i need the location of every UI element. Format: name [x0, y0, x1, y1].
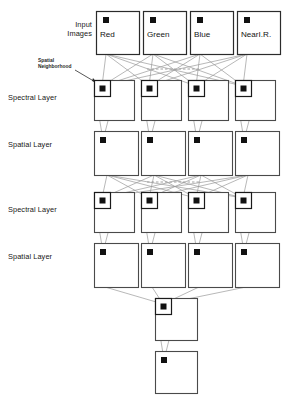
- spatial-neighborhood-annotation: Spatial Neighborhood: [38, 58, 94, 70]
- spectral-layer-1-node-2: [142, 81, 182, 121]
- spatial-neighborhood-line2: Neighborhood: [38, 64, 94, 70]
- spectral-layer-1-node-4: [236, 81, 276, 121]
- spatial-layer-2-node-2: [142, 244, 186, 288]
- output-spectral-layer-node-1: [156, 299, 198, 341]
- spectral-layer-2-node-1: [95, 193, 135, 233]
- spatial-layer-1-node-3-marker: [194, 137, 200, 143]
- input-images-label: Input Images: [40, 20, 92, 39]
- spatial-layer-1-node-2-marker: [147, 137, 153, 143]
- spatial-layer-1-node-2: [142, 132, 186, 176]
- input-band-red-marker: [103, 17, 109, 23]
- spatial-layer-1-node-4-marker: [241, 137, 247, 143]
- spectral-layer-1-label: Spectral Layer: [8, 93, 57, 102]
- spectral-layer-1-node-1: [95, 81, 135, 121]
- spectral-layer-1-node-1-marker: [100, 86, 106, 92]
- input-band-blue-label: Blue: [194, 30, 210, 39]
- input-band-green-marker: [150, 17, 156, 23]
- spatial-layer-2-node-1: [95, 244, 139, 288]
- spatial-layer-2-node-4-marker: [241, 249, 247, 255]
- input-band-red-label: Red: [100, 30, 115, 39]
- input-images-label-line1: Input: [40, 20, 92, 29]
- spatial-layer-2-node-3: [189, 244, 233, 288]
- output-spatial-layer-node-1-marker: [161, 357, 167, 363]
- spatial-layer-1-node-3: [189, 132, 233, 176]
- input-images-label-line2: Images: [40, 29, 92, 38]
- spatial-layer-1-label: Spatial Layer: [8, 140, 52, 149]
- spatial-layer-2-node-3-marker: [194, 249, 200, 255]
- spectral-layer-2-node-3: [189, 193, 229, 233]
- input-band-green-label: Green: [147, 30, 170, 39]
- spatial-layer-2-node-1-marker: [100, 249, 106, 255]
- spatial-layer-1-node-1-marker: [100, 137, 106, 143]
- spectral-layer-2-node-3-marker: [194, 198, 200, 204]
- spatial-layer-2-node-4: [236, 244, 280, 288]
- spatial-layer-1-node-1: [95, 132, 139, 176]
- spectral-layer-1-node-2-marker: [147, 86, 153, 92]
- spatial-layer-2-node-2-marker: [147, 249, 153, 255]
- output-spatial-layer-node-1: [156, 352, 198, 394]
- input-band-neari-r-label: NearI.R.: [241, 30, 271, 39]
- output-spectral-layer-node-1-marker: [161, 304, 167, 310]
- spatial-layer-2-label: Spatial Layer: [8, 252, 52, 261]
- input-band-neari-r-marker: [244, 17, 250, 23]
- input-band-blue-marker: [197, 17, 203, 23]
- spatial-layer-1-node-4: [236, 132, 280, 176]
- architecture-diagram: Input Images Spatial Neighborhood RedGre…: [0, 0, 291, 397]
- spectral-layer-2-label: Spectral Layer: [8, 205, 57, 214]
- spectral-layer-1-node-4-marker: [241, 86, 247, 92]
- spectral-layer-2-node-4-marker: [241, 198, 247, 204]
- spectral-layer-2-node-2: [142, 193, 182, 233]
- spectral-layer-1-node-3: [189, 81, 229, 121]
- spectral-layer-2-node-1-marker: [100, 198, 106, 204]
- spectral-layer-2-node-4: [236, 193, 276, 233]
- spectral-layer-1-node-3-marker: [194, 86, 200, 92]
- spectral-layer-2-node-2-marker: [147, 198, 153, 204]
